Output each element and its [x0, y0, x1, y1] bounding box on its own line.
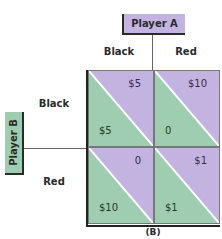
- player-b-label-box: Player B: [5, 112, 24, 175]
- payoff-matrix: $5 $5 $10 0 0 $10 $1 $1: [86, 70, 220, 227]
- payoff-player-a: $5: [128, 78, 141, 89]
- payoff-cell-red-red: $1 $1: [154, 147, 220, 224]
- payoff-cell-black-red: $10 0: [154, 70, 220, 147]
- figure-caption: (B): [140, 227, 166, 237]
- payoff-cell-red-black: 0 $10: [88, 147, 154, 224]
- payoff-player-b: $1: [165, 202, 178, 213]
- column-header-black: Black: [86, 46, 152, 57]
- player-b-connector: [24, 148, 87, 149]
- payoff-player-a: $10: [188, 78, 207, 89]
- payoff-player-b: $10: [99, 202, 118, 213]
- payoff-player-a: 0: [135, 155, 141, 166]
- payoff-player-b: $5: [99, 125, 112, 136]
- player-a-label-box: Player A: [122, 14, 185, 35]
- payoff-cell-black-black: $5 $5: [88, 70, 154, 147]
- column-header-red: Red: [153, 46, 219, 57]
- row-header-black: Black: [34, 98, 74, 109]
- player-a-label: Player A: [131, 18, 178, 29]
- payoff-player-a: $1: [194, 155, 207, 166]
- row-header-red: Red: [34, 176, 74, 187]
- player-b-label: Player B: [8, 119, 19, 166]
- payoff-player-b: 0: [165, 125, 171, 136]
